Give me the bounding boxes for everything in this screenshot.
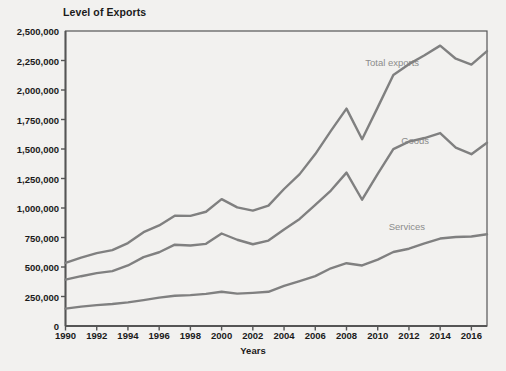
series-line-total-exports xyxy=(66,46,488,263)
data-lines xyxy=(66,46,488,309)
plot-area xyxy=(0,0,506,371)
series-line-services xyxy=(66,234,488,308)
plot-frame xyxy=(66,31,488,326)
chart-container: Level of Exports 0250,000500,000750,0001… xyxy=(0,0,506,371)
series-line-goods xyxy=(66,133,488,280)
axes xyxy=(61,31,487,331)
